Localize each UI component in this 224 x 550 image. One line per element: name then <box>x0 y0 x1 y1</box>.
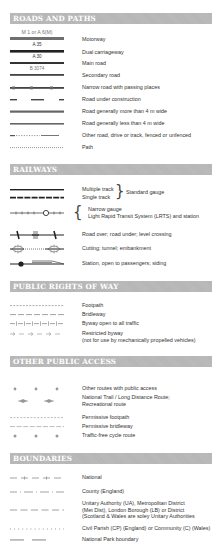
road-over-under-crossing-symbol <box>10 230 64 240</box>
byway-symbol <box>10 320 64 328</box>
legend-label: Road under construction <box>82 96 141 102</box>
legend-note: (not for use by mechanically propelled v… <box>82 337 196 343</box>
legend-label: Footpath <box>82 302 103 308</box>
legend-label: Station, open to passengers; siding <box>82 260 166 266</box>
station-siding-symbol <box>10 258 64 268</box>
legend-label-line2: (Met Dist), London Borough (LB) or Distr… <box>82 507 184 513</box>
legend-label: Permissive bridleway <box>82 423 133 429</box>
civil-parish-symbol <box>10 525 64 533</box>
narrow-road-symbol <box>10 84 64 92</box>
single-track-symbol <box>10 194 64 202</box>
legend-label: Secondary road <box>82 72 120 78</box>
brace-narrow-gauge: { <box>73 204 83 220</box>
section-header-other-access: OTHER PUBLIC ACCESS <box>10 356 212 367</box>
legend-label: Light Rapid Transit System (LRTS) and st… <box>88 213 199 219</box>
road-construction-symbol <box>10 96 64 104</box>
legend-label: Other routes with public access <box>82 385 157 391</box>
standard-gauge-label: Standard gauge <box>126 189 164 195</box>
legend-label: Single track <box>82 194 110 200</box>
county-boundary-symbol <box>10 488 64 496</box>
legend-label: National <box>82 474 102 480</box>
legend-label: Path <box>82 144 93 150</box>
cutting-tunnel-embankment-symbol <box>10 243 64 255</box>
other-routes-symbol <box>10 385 64 393</box>
permissive-footpath-symbol <box>10 414 64 422</box>
legend-label: County (England) <box>82 488 124 494</box>
secondary-road-symbol <box>10 67 64 81</box>
legend-label: Other road, drive or track, fenced or un… <box>82 132 191 138</box>
legend-label: Bridleway <box>82 311 105 317</box>
permissive-bridleway-symbol <box>10 423 64 431</box>
legend-label: Narrow gauge <box>88 206 122 212</box>
legend-label: Multiple track <box>82 186 114 192</box>
legend-label-line2: Recreational route <box>82 401 126 407</box>
road-under-4m-symbol <box>10 120 64 128</box>
cycle-route-symbol <box>10 432 64 440</box>
legend-label: Motorway <box>82 36 105 42</box>
legend-label: National Trail / Long Distance Route; <box>82 394 170 400</box>
path-symbol <box>10 144 64 152</box>
legend-label: Road over; road under; level crossing <box>82 231 172 237</box>
national-park-boundary-symbol <box>10 536 64 544</box>
legend-label: Main road <box>82 60 106 66</box>
legend-label: Traffic-free cycle route <box>82 432 135 438</box>
narrow-gauge-lrts-symbol <box>10 206 64 220</box>
legend-label: Road generally less than 4 m wide <box>82 120 164 126</box>
legend-label: Restricted byway <box>82 330 123 336</box>
brace-standard-gauge: } <box>115 183 125 199</box>
bridleway-symbol <box>10 311 64 319</box>
section-header-roads: ROADS AND PATHS <box>10 13 212 24</box>
legend-label: Civil Parish (CP) (England) or Community… <box>82 525 210 531</box>
section-header-boundaries: BOUNDARIES <box>10 453 212 464</box>
road-over-4m-symbol <box>10 108 64 116</box>
footpath-symbol <box>10 302 64 310</box>
legend-label: Cutting; tunnel; embankment <box>82 245 151 251</box>
other-road-symbol <box>10 132 64 140</box>
unitary-authority-symbol <box>10 500 64 520</box>
multiple-track-symbol <box>10 186 64 194</box>
legend-label-line3: (Scotland & Wales are soley Unitary Auth… <box>82 513 195 519</box>
legend-label: Permissive footpath <box>82 414 129 420</box>
legend-label: Dual carriageway <box>82 49 124 55</box>
national-trail-symbol <box>10 394 64 408</box>
section-header-rights-of-way: PUBLIC RIGHTS OF WAY <box>10 281 212 292</box>
legend-label: Narrow road with passing places <box>82 84 160 90</box>
legend-label: Road generally more than 4 m wide <box>82 108 167 114</box>
national-boundary-symbol <box>10 474 64 482</box>
section-header-railways: RAILWAYS <box>10 164 212 175</box>
legend-label: National Park boundary <box>82 536 138 542</box>
legend-label: Byway open to all traffic <box>82 320 139 326</box>
restricted-byway-symbol <box>10 330 64 338</box>
legend-label: Unitary Authority (UA), Metropolitan Dis… <box>82 500 185 506</box>
